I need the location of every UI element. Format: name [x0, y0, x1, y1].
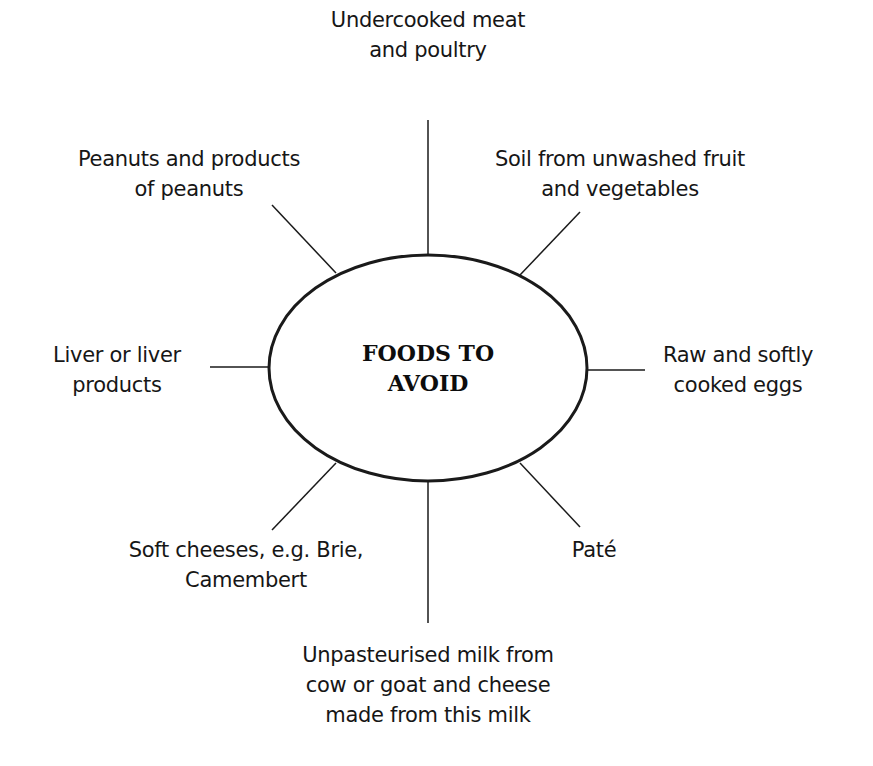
- branch-label-top: Undercooked meat and poultry: [331, 5, 525, 65]
- connector-bottom-left: [272, 463, 336, 530]
- branch-label-line: Peanuts and products: [78, 144, 300, 174]
- branch-label-left: Liver or liver products: [53, 340, 181, 400]
- branch-label-line: Undercooked meat: [331, 5, 525, 35]
- branch-label-line: cooked eggs: [663, 370, 813, 400]
- connector-bottom-right: [520, 463, 580, 527]
- branch-label-line: products: [53, 370, 181, 400]
- branch-label-line: Camembert: [129, 565, 364, 595]
- branch-label-line: and vegetables: [495, 174, 745, 204]
- branch-label-bottom-left: Soft cheeses, e.g. Brie, Camembert: [129, 535, 364, 595]
- branch-label-line: of peanuts: [78, 174, 300, 204]
- branch-label-line: cow or goat and cheese: [302, 670, 554, 700]
- branch-label-top-right: Soil from unwashed fruit and vegetables: [495, 144, 745, 204]
- branch-label-line: Paté: [572, 535, 617, 565]
- center-title: FOODS TO AVOID: [362, 338, 494, 398]
- branch-label-line: Soil from unwashed fruit: [495, 144, 745, 174]
- branch-label-line: Liver or liver: [53, 340, 181, 370]
- branch-label-bottom-right: Paté: [572, 535, 617, 565]
- center-title-line1: FOODS TO: [362, 338, 494, 368]
- branch-label-bottom: Unpasteurised milk from cow or goat and …: [302, 640, 554, 730]
- branch-label-right: Raw and softly cooked eggs: [663, 340, 813, 400]
- connector-top-right: [520, 212, 580, 275]
- branch-label-line: Raw and softly: [663, 340, 813, 370]
- center-title-line2: AVOID: [362, 368, 494, 398]
- branch-label-line: and poultry: [331, 35, 525, 65]
- branch-label-line: Unpasteurised milk from: [302, 640, 554, 670]
- branch-label-top-left: Peanuts and products of peanuts: [78, 144, 300, 204]
- connector-top-left: [272, 205, 336, 273]
- branch-label-line: Soft cheeses, e.g. Brie,: [129, 535, 364, 565]
- branch-label-line: made from this milk: [302, 700, 554, 730]
